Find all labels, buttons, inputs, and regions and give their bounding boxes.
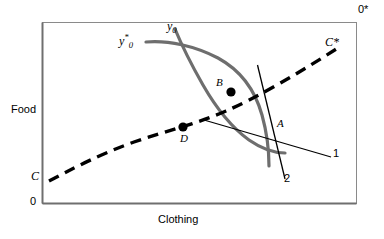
point-label-d: D <box>180 133 188 144</box>
opposite-origin-label: 0* <box>358 4 368 15</box>
contract-curve-start-label: C <box>31 170 39 182</box>
budget-line-2-label: 2 <box>284 173 290 184</box>
y-axis-title: Food <box>11 104 36 115</box>
x-axis-title: Clothing <box>158 214 198 225</box>
point-marker-b <box>226 87 235 96</box>
origin-label: 0 <box>30 196 36 207</box>
point-label-a: A <box>277 118 284 129</box>
curve-label-y0-star-subscript: 0 <box>129 40 133 50</box>
curve-label-y0-star: y*0 <box>119 33 133 50</box>
curve-label-y0-subscript: 0 <box>172 25 176 35</box>
budget-line-1-label: 1 <box>333 148 339 159</box>
contract-curve-end-label: C* <box>325 36 339 48</box>
point-label-b: B <box>216 77 223 88</box>
economics-diagram: Food Clothing 0 0* y0 y*0 C* C A B D 1 2 <box>0 0 384 239</box>
curve-label-y0: y0 <box>167 20 177 35</box>
point-marker-d <box>178 122 187 131</box>
